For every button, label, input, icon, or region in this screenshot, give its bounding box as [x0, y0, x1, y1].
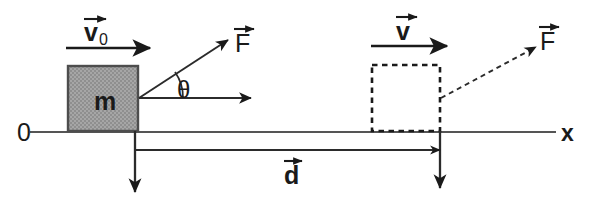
initial-velocity-label: v: [84, 18, 98, 46]
force-final-label: F: [540, 27, 555, 55]
ghost-block-dashed: [372, 65, 440, 131]
force-vector-final: [441, 47, 536, 98]
physics-diagram-canvas: 0 x m v 0 v F F θ d: [0, 0, 590, 205]
force-initial-label: F: [235, 29, 250, 57]
final-velocity-label: v: [396, 17, 410, 45]
axis-x-label: x: [561, 120, 574, 146]
initial-velocity-subscript: 0: [99, 31, 108, 48]
theta-angle-label: θ: [177, 76, 190, 103]
displacement-label: d: [284, 161, 299, 189]
mass-label: m: [94, 87, 116, 115]
origin-label: 0: [17, 118, 31, 146]
physics-diagram-figure: 0 x m v 0 v F F θ d: [0, 0, 590, 205]
